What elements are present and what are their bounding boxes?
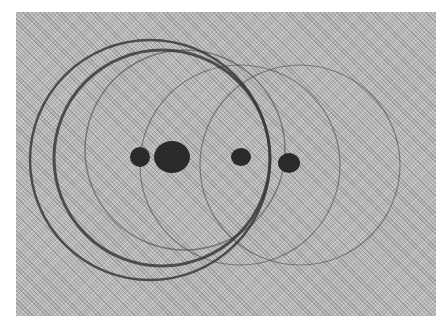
- dot: [130, 147, 150, 167]
- ring: [200, 65, 400, 265]
- dot: [154, 141, 190, 173]
- rings-group: [30, 40, 400, 280]
- dot: [231, 148, 251, 166]
- dot: [278, 153, 300, 173]
- dots-group: [130, 141, 300, 173]
- rings-and-dots-figure: [0, 0, 447, 331]
